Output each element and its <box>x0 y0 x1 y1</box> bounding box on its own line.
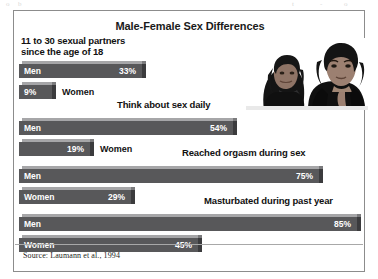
scan-artifact-4: - <box>320 0 328 8</box>
bar-label-women-think: Women <box>100 144 132 154</box>
bar-value-women: 19% <box>67 144 84 154</box>
photo-woman-and-man <box>246 38 368 110</box>
chart-title: Male-Female Sex Differences <box>14 20 366 32</box>
bar-value-men: 75% <box>296 171 313 181</box>
bar-value-women: 9% <box>24 87 36 97</box>
bar-cap-face <box>142 61 146 64</box>
bar-label-men: Men <box>24 171 41 181</box>
bar-top-face <box>22 214 357 217</box>
bar-top-face <box>22 187 131 190</box>
bar-men-orgasm[interactable]: Men 75% <box>19 169 319 183</box>
bar-value-men: 54% <box>210 123 227 133</box>
bar-label-men: Men <box>24 219 41 229</box>
scan-artifacts: o b t - o <box>0 0 378 9</box>
bar-label-men: Men <box>24 66 41 76</box>
bar-cap-face <box>319 166 323 169</box>
bar-men-masturbated[interactable]: Men 85% <box>19 217 357 231</box>
group-label-3: Reached orgasm during sex <box>182 147 305 158</box>
group-label-4: Masturbated during past year <box>204 195 333 206</box>
scan-artifact-5: o <box>344 0 354 8</box>
source-text: Source: Laumann et al., 1994 <box>23 251 120 260</box>
bar-top-face <box>22 139 90 142</box>
bar-women-partners[interactable]: 9% <box>19 85 52 99</box>
bar-value-men: 85% <box>334 219 351 229</box>
bar-value-women: 29% <box>108 192 125 202</box>
bar-cap-face <box>131 187 135 190</box>
bar-men-think[interactable]: Men 54% <box>19 121 233 135</box>
bar-women-orgasm[interactable]: Women 29% <box>19 190 131 204</box>
bar-women-masturbated[interactable]: Women 45% <box>19 238 198 252</box>
bar-top-face <box>22 82 52 85</box>
group-label-1-line1: 11 to 30 sexual partners <box>21 35 125 46</box>
scan-artifact-3: t <box>292 0 300 8</box>
bar-cap-face <box>233 118 237 121</box>
bar-label-women-partners: Women <box>62 87 94 97</box>
bar-cap-face <box>90 139 94 142</box>
group-label-1-line2: since the age of 18 <box>21 46 125 57</box>
bar-women-think[interactable]: 19% <box>19 142 90 156</box>
scan-artifact-1: o <box>6 0 16 8</box>
bar-cap-face <box>357 214 361 217</box>
bar-value-men: 33% <box>119 66 136 76</box>
bar-cap-face <box>198 235 202 238</box>
group-label-2: Think about sex daily <box>117 99 210 110</box>
bar-top-face <box>22 118 233 121</box>
photo-image <box>246 38 368 110</box>
bar-label-women: Women <box>24 192 55 202</box>
source-divider <box>15 244 363 245</box>
group-label-1: 11 to 30 sexual partners since the age o… <box>21 35 125 57</box>
bar-value-women: 45% <box>175 240 192 250</box>
figure-frame: Male-Female Sex Differences <box>13 10 365 272</box>
bar-top-face <box>22 235 198 238</box>
bar-top-face <box>22 61 142 64</box>
bar-top-face <box>22 166 319 169</box>
bar-cap-face <box>52 82 56 85</box>
bar-label-women: Women <box>24 240 55 250</box>
bar-label-men: Men <box>24 123 41 133</box>
bar-men-partners[interactable]: Men 33% <box>19 64 142 78</box>
scan-artifact-2: b <box>18 0 28 8</box>
